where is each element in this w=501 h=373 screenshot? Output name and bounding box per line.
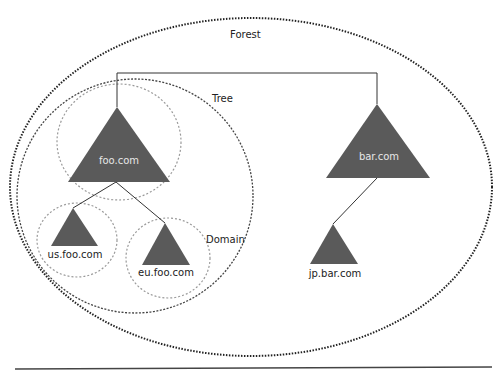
forest-boundary	[10, 18, 492, 356]
domain-label: Domain	[206, 234, 245, 245]
node-label-eu: eu.foo.com	[138, 267, 194, 278]
domain-triangle-bar[interactable]	[326, 104, 430, 178]
link-foo-eu	[116, 182, 165, 223]
domain-triangle-jp[interactable]	[310, 224, 358, 264]
node-label-us: us.foo.com	[48, 249, 103, 260]
trust-link-foo-bar	[117, 73, 377, 107]
domain-triangle-foo[interactable]	[68, 107, 170, 182]
tree-label: Tree	[211, 93, 233, 104]
tree-boundary	[17, 79, 253, 313]
forest-diagram: Forest Tree Domain foo.com bar.com us.fo…	[0, 0, 501, 373]
link-bar-jp	[333, 178, 377, 224]
node-label-foo: foo.com	[99, 155, 139, 166]
domain-triangle-us[interactable]	[51, 208, 98, 246]
bottom-rule	[15, 367, 492, 369]
forest-label: Forest	[230, 29, 261, 40]
node-label-jp: jp.bar.com	[308, 268, 362, 279]
domain-triangle-eu[interactable]	[142, 223, 190, 265]
link-foo-us	[73, 182, 116, 208]
node-label-bar: bar.com	[359, 151, 399, 162]
